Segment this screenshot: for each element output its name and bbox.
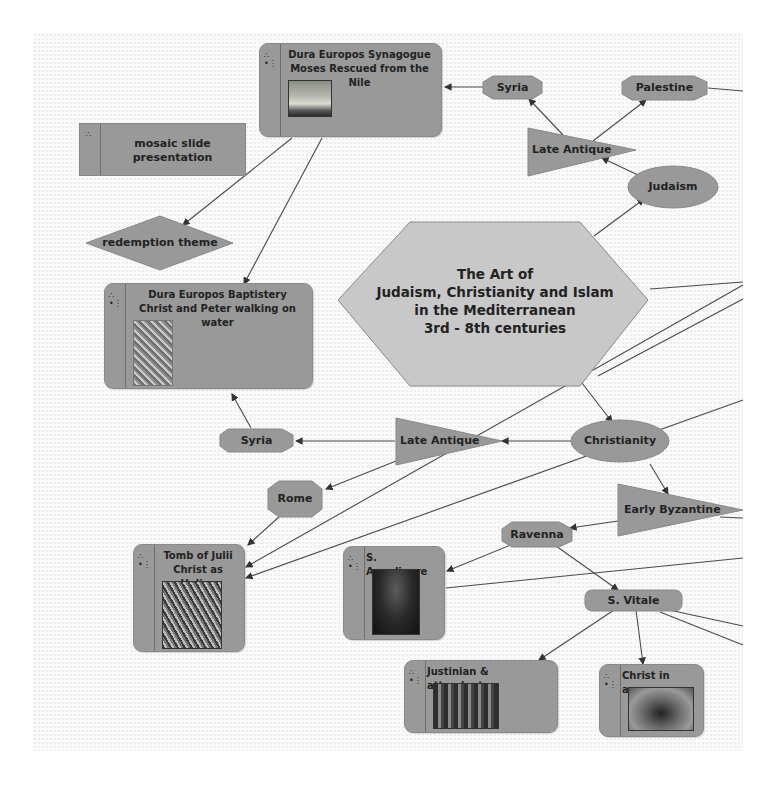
info-icon[interactable]: •⋮ [138,560,151,569]
node-strip: ∴•⋮ [260,44,281,136]
node-s-appolinare[interactable]: ∴•⋮ S. Appolinare [343,546,445,640]
thumbnail-image[interactable] [162,581,222,649]
info-icon[interactable]: •⋮ [264,59,277,68]
node-strip: ∴•⋮ [105,284,126,388]
node-strip: ∴•⋮ [344,547,365,639]
central-topic-line-3: in the Mediterranean [414,301,575,319]
node-strip: ∴ [80,124,101,175]
thumbnail-image[interactable] [628,687,694,731]
node-justinian-attendants[interactable]: ∴•⋮ Justinian & attendants [404,660,558,733]
node-dura-baptistery[interactable]: ∴•⋮ Dura Europos Baptistery Christ and P… [104,283,313,389]
thumbnail-image[interactable] [288,80,332,117]
title-line-1: Dura Europos Synagogue [282,48,437,62]
central-topic[interactable]: The Art of Judaism, Christianity and Isl… [350,255,640,347]
info-icon[interactable]: •⋮ [409,676,422,685]
node-judaism[interactable]: Judaism [628,176,718,198]
node-strip: ∴•⋮ [405,661,426,732]
info-icon[interactable]: •⋮ [604,680,617,689]
title-line-1: Dura Europos Baptistery [127,288,308,302]
thumbnail-image[interactable] [372,569,420,635]
info-icon[interactable]: •⋮ [348,562,361,571]
central-topic-line-1: The Art of [457,265,533,283]
node-strip: ∴•⋮ [600,665,621,736]
node-s-vitale[interactable]: S. Vitale [585,590,682,611]
info-icon[interactable]: •⋮ [109,299,122,308]
node-mosaic-slide-presentation[interactable]: ∴ mosaic slide presentation [79,123,246,176]
node-syria-mid[interactable]: Syria [220,429,293,452]
hierarchy-icon[interactable]: ∴ [86,130,91,139]
node-rome[interactable]: Rome [268,481,322,517]
node-christianity[interactable]: Christianity [571,430,669,452]
doc-label: mosaic slide presentation [102,124,243,177]
node-strip: ∴•⋮ [134,545,155,651]
node-ravenna[interactable]: Ravenna [502,522,572,547]
node-late-antique-mid[interactable]: Late Antique [396,432,480,450]
thumbnail-image[interactable] [433,683,499,729]
node-tomb-of-julii[interactable]: ∴•⋮ Tomb of Julii Christ as Helios [133,544,245,652]
node-late-antique-top[interactable]: Late Antique [528,141,612,159]
node-christ-in-apse[interactable]: ∴•⋮ Christ in apse [599,664,704,737]
node-syria-top[interactable]: Syria [483,76,542,99]
node-palestine[interactable]: Palestine [622,76,707,100]
node-early-byzantine[interactable]: Early Byzantine [618,501,724,519]
thumbnail-image[interactable] [133,320,173,386]
node-redemption-theme[interactable]: redemption theme [96,233,224,253]
central-topic-line-2: Judaism, Christianity and Islam [376,283,613,301]
title-line-1: Tomb of Julii [156,549,240,563]
node-dura-synagogue[interactable]: ∴•⋮ Dura Europos Synagogue Moses Rescued… [259,43,442,137]
central-topic-line-4: 3rd - 8th centuries [424,319,566,337]
